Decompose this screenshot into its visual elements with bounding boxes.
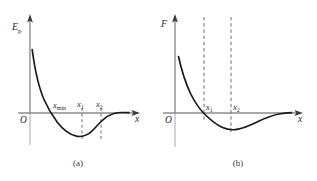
panel-b-tick-label-x2: x2: [232, 102, 240, 113]
panel-b-x-axis-label: x: [297, 114, 303, 124]
panel-a-curve: [32, 50, 129, 137]
figure-canvas: Ep O x xmin x1 x2: [0, 0, 317, 181]
panel-b-origin-label: O: [165, 115, 172, 125]
panel-a-tick-label-xmin: xmin: [52, 100, 66, 111]
panel-a-tick-label-x1: x1: [76, 99, 84, 110]
panel-a: Ep O x xmin x1 x2: [11, 14, 140, 145]
physics-figure: Ep O x xmin x1 x2: [0, 0, 317, 181]
panel-a-origin-label: O: [20, 115, 27, 125]
panel-a-caption: (a): [48, 158, 108, 168]
panel-b-caption: (b): [208, 158, 268, 168]
panel-a-tick-label-x2: x2: [95, 99, 103, 110]
panel-a-y-axis-label: Ep: [11, 21, 22, 35]
panel-b-tick-label-x1: x1: [205, 102, 213, 113]
panel-b-curve: [179, 57, 292, 130]
panel-b-y-axis-label: F: [160, 18, 168, 29]
panel-a-x-axis-label: x: [134, 114, 140, 124]
panel-b: F O x x1 x2: [160, 14, 303, 147]
